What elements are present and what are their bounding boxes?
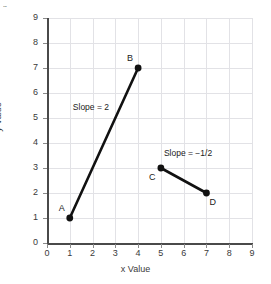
slope-annotation: Slope = −1/2 bbox=[164, 148, 212, 158]
gridline-horizontal bbox=[47, 168, 252, 169]
y-axis-tick-label: 8 bbox=[24, 37, 38, 47]
x-axis-tick-label: 4 bbox=[130, 248, 146, 258]
gridline-vertical bbox=[206, 18, 207, 243]
y-axis-tick-label: 7 bbox=[24, 62, 38, 72]
x-axis-tick-label: 3 bbox=[107, 248, 123, 258]
y-axis-tick-label: 0 bbox=[24, 237, 38, 247]
gridline-horizontal bbox=[47, 43, 252, 44]
y-axis-tick-label: 1 bbox=[24, 212, 38, 222]
gridline-horizontal bbox=[47, 143, 252, 144]
y-axis-tick-label: 3 bbox=[24, 162, 38, 172]
y-axis-tick-label: 2 bbox=[24, 187, 38, 197]
x-axis-tick-label: 1 bbox=[62, 248, 78, 258]
data-point-label: D bbox=[209, 197, 216, 207]
data-point-label: A bbox=[59, 203, 65, 213]
x-axis-tick-label: 0 bbox=[39, 248, 55, 258]
y-axis-tick bbox=[43, 143, 47, 144]
y-axis-title: y Value bbox=[0, 102, 3, 131]
y-axis-tick-label: 9 bbox=[24, 12, 38, 22]
figure-corner-mark: ... bbox=[3, 2, 7, 8]
y-axis-tick bbox=[43, 18, 47, 19]
gridline-vertical bbox=[115, 18, 116, 243]
y-axis-line bbox=[47, 18, 49, 244]
gridline-vertical bbox=[184, 18, 185, 243]
y-axis-tick bbox=[43, 68, 47, 69]
x-axis-tick-label: 8 bbox=[221, 248, 237, 258]
x-axis-line bbox=[47, 243, 253, 245]
data-point-label: C bbox=[149, 172, 156, 182]
gridline-horizontal bbox=[47, 68, 252, 69]
gridline-vertical bbox=[138, 18, 139, 243]
y-axis-tick-label: 6 bbox=[24, 87, 38, 97]
chart-figure: ... y Value x Value 01234567890123456789… bbox=[0, 0, 271, 284]
y-axis-tick-label: 4 bbox=[24, 137, 38, 147]
gridline-vertical bbox=[161, 18, 162, 243]
plot-area bbox=[47, 18, 252, 243]
gridline-vertical bbox=[229, 18, 230, 243]
y-axis-tick-label: 5 bbox=[24, 112, 38, 122]
gridline-vertical bbox=[252, 18, 253, 243]
gridline-horizontal bbox=[47, 193, 252, 194]
y-axis-tick bbox=[43, 193, 47, 194]
x-axis-tick-label: 7 bbox=[198, 248, 214, 258]
x-axis-tick-label: 5 bbox=[153, 248, 169, 258]
y-axis-tick bbox=[43, 168, 47, 169]
y-axis-tick bbox=[43, 218, 47, 219]
x-axis-tick-label: 6 bbox=[176, 248, 192, 258]
gridline-horizontal bbox=[47, 18, 252, 19]
x-axis-tick-label: 9 bbox=[244, 248, 260, 258]
slope-annotation: Slope = 2 bbox=[73, 102, 109, 112]
y-axis-tick bbox=[43, 43, 47, 44]
y-axis-tick bbox=[43, 93, 47, 94]
gridline-horizontal bbox=[47, 93, 252, 94]
x-axis-tick-label: 2 bbox=[85, 248, 101, 258]
gridline-vertical bbox=[70, 18, 71, 243]
gridline-horizontal bbox=[47, 118, 252, 119]
x-axis-title: x Value bbox=[0, 264, 271, 274]
gridline-vertical bbox=[93, 18, 94, 243]
data-point-label: B bbox=[127, 53, 133, 63]
gridline-horizontal bbox=[47, 218, 252, 219]
y-axis-tick bbox=[43, 118, 47, 119]
